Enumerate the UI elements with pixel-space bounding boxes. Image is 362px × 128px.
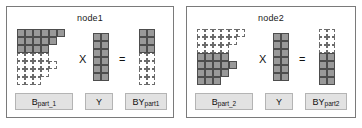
- matrix-by-part2-row: [319, 61, 335, 69]
- matrix-b-part-1-cell: [41, 37, 49, 45]
- figure-root: node1 X = Bpart_1 Y BYpart1 node2 X: [0, 0, 362, 128]
- multiply-operator-node1: X: [79, 53, 86, 65]
- matrix-b-part-2-cell: [237, 61, 245, 69]
- matrix-b-part-2-cell: [213, 69, 221, 77]
- equals-operator-node2: =: [299, 53, 305, 65]
- matrix-b-part-2-cell: [237, 69, 245, 77]
- matrix-y-node1-cell: [93, 41, 101, 49]
- tag-by-part1: BYpart1: [125, 93, 167, 110]
- matrix-by-part2-row: [319, 37, 335, 45]
- matrix-b-part-2-cell: [205, 77, 213, 85]
- matrix-by-part1-cell: [147, 37, 155, 45]
- matrix-by-part1-cell: [147, 29, 155, 37]
- tag-y-node2-base: Y: [276, 97, 282, 107]
- matrix-b-part-2-cell: [221, 37, 229, 45]
- matrix-b-part-2-cell: [221, 61, 229, 69]
- matrix-by-part1-cell: [139, 45, 147, 53]
- tag-by-part2-sub: part2: [325, 100, 340, 107]
- equation-stage-node2: X =: [187, 27, 355, 85]
- matrix-by-part2-row: [319, 69, 335, 77]
- matrix-by-part1-cell: [139, 29, 147, 37]
- matrix-by-part1-cell: [147, 61, 155, 69]
- matrix-b-part-2-cell: [197, 61, 205, 69]
- equals-operator-node1: =: [119, 53, 125, 65]
- matrix-b-part-1-cell: [25, 77, 33, 85]
- tag-by-part1-base: BY: [133, 97, 145, 107]
- matrix-b-part-1-cell: [41, 77, 49, 85]
- matrix-y-node2-cell: [281, 33, 289, 41]
- matrix-b-part-1-cell: [41, 29, 49, 37]
- matrix-b-part-1: [17, 29, 65, 85]
- matrix-b-part-1-cell: [49, 37, 57, 45]
- matrix-by-part1-row: [139, 53, 155, 61]
- matrix-by-part2-cell: [319, 37, 327, 45]
- matrix-b-part-1-cell: [25, 69, 33, 77]
- tag-y-node1-base: Y: [96, 97, 102, 107]
- matrix-b-part-2-row: [197, 45, 245, 53]
- matrix-y-node2-row: [273, 33, 289, 41]
- tag-y-node1: Y: [85, 93, 113, 110]
- matrix-y-node2-row: [273, 41, 289, 49]
- matrix-y-node2-cell: [273, 41, 281, 49]
- matrix-b-part-2-cell: [229, 69, 237, 77]
- matrix-b-part-2-cell: [229, 53, 237, 61]
- matrix-b-part-2-cell: [221, 45, 229, 53]
- matrix-b-part-2-row: [197, 61, 245, 69]
- label-row-node2: Bpart_2 Y BYpart2: [187, 93, 355, 110]
- matrix-by-part1-cell: [139, 69, 147, 77]
- matrix-b-part-2-cell: [237, 29, 245, 37]
- matrix-b-part-1-cell: [25, 29, 33, 37]
- matrix-y-node2-row: [273, 49, 289, 57]
- matrix-by-part2-cell: [327, 29, 335, 37]
- matrix-y-node1-row: [93, 73, 109, 81]
- matrix-y-node1-cell: [101, 65, 109, 73]
- matrix-b-part-1-cell: [17, 61, 25, 69]
- matrix-b-part-1-cell: [41, 53, 49, 61]
- matrix-b-part-2-cell: [237, 53, 245, 61]
- matrix-b-part-1-cell: [33, 77, 41, 85]
- matrix-by-part2-row: [319, 77, 335, 85]
- matrix-y-node2-row: [273, 73, 289, 81]
- matrix-b-part-2-cell: [221, 77, 229, 85]
- tag-b-part-2: Bpart_2: [195, 93, 253, 110]
- matrix-by-part2-row: [319, 29, 335, 37]
- matrix-y-node2-cell: [273, 65, 281, 73]
- tag-b-part-2-sub: part_2: [218, 100, 236, 107]
- matrix-y-node1-cell: [93, 73, 101, 81]
- matrix-y-node2-cell: [273, 73, 281, 81]
- matrix-b-part-1-row: [17, 77, 65, 85]
- matrix-by-part1-cell: [139, 37, 147, 45]
- matrix-by-part2-cell: [327, 69, 335, 77]
- matrix-b-part-1-cell: [49, 61, 57, 69]
- matrix-y-node1-row: [93, 65, 109, 73]
- matrix-b-part-2-cell: [197, 37, 205, 45]
- matrix-b-part-2-cell: [197, 45, 205, 53]
- matrix-b-part-2-cell: [221, 53, 229, 61]
- panel-node1: node1 X = Bpart_1 Y BYpart1: [6, 6, 174, 118]
- matrix-y-node1-cell: [93, 57, 101, 65]
- matrix-b-part-1-cell: [49, 45, 57, 53]
- matrix-b-part-2-cell: [205, 29, 213, 37]
- tag-b-part-1-sub: part_1: [38, 100, 56, 107]
- matrix-b-part-2-cell: [221, 69, 229, 77]
- matrix-by-part2-cell: [319, 77, 327, 85]
- matrix-b-part-2-cell: [229, 77, 237, 85]
- matrix-b-part-2-cell: [205, 37, 213, 45]
- tag-b-part-1: Bpart_1: [15, 93, 73, 110]
- matrix-y-node2-cell: [273, 57, 281, 65]
- label-row-node1: Bpart_1 Y BYpart1: [7, 93, 173, 110]
- matrix-b-part-1-cell: [25, 53, 33, 61]
- panel-title-node1: node1: [7, 13, 173, 23]
- matrix-by-part1-cell: [139, 77, 147, 85]
- matrix-y-node1-cell: [93, 65, 101, 73]
- matrix-b-part-2-cell: [205, 69, 213, 77]
- matrix-b-part-1-cell: [57, 45, 65, 53]
- matrix-b-part-1-cell: [17, 37, 25, 45]
- matrix-y-node1-cell: [93, 33, 101, 41]
- matrix-b-part-2-cell: [213, 29, 221, 37]
- matrix-by-part2-cell: [327, 77, 335, 85]
- matrix-b-part-2-cell: [197, 77, 205, 85]
- matrix-by-part1-cell: [147, 77, 155, 85]
- matrix-b-part-2-cell: [213, 53, 221, 61]
- matrix-by-part2-cell: [319, 45, 327, 53]
